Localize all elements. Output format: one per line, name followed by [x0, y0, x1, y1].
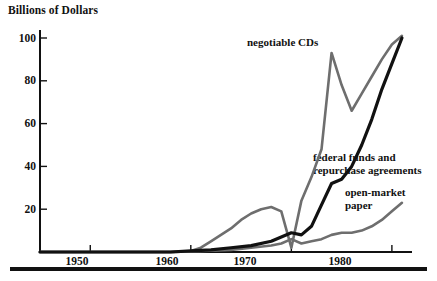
data-series-group — [40, 36, 402, 252]
series-line-negotiable-cds — [40, 36, 402, 252]
series-line-federal-funds — [40, 38, 402, 252]
chart-plot-area — [0, 0, 437, 281]
axes-group — [39, 30, 412, 253]
chart-figure: Billions of Dollars 100 80 60 40 20 1950… — [0, 0, 437, 281]
series-line-open-market-paper — [40, 203, 402, 252]
